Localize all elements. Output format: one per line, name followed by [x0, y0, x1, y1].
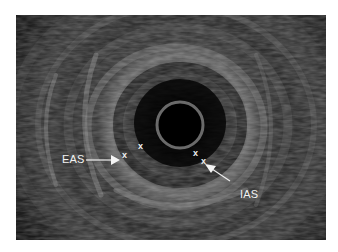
eas-label: EAS	[62, 153, 85, 165]
ultrasound-texture	[16, 15, 326, 240]
ias-marker-outer: x	[201, 157, 206, 166]
ias-label: IAS	[240, 188, 258, 200]
eas-marker-outer: x	[122, 151, 127, 160]
ultrasound-image: EAS IAS x x x x	[16, 15, 326, 240]
eas-marker-inner: x	[138, 142, 143, 151]
probe-ring	[157, 102, 203, 148]
ias-marker-inner: x	[193, 149, 198, 158]
